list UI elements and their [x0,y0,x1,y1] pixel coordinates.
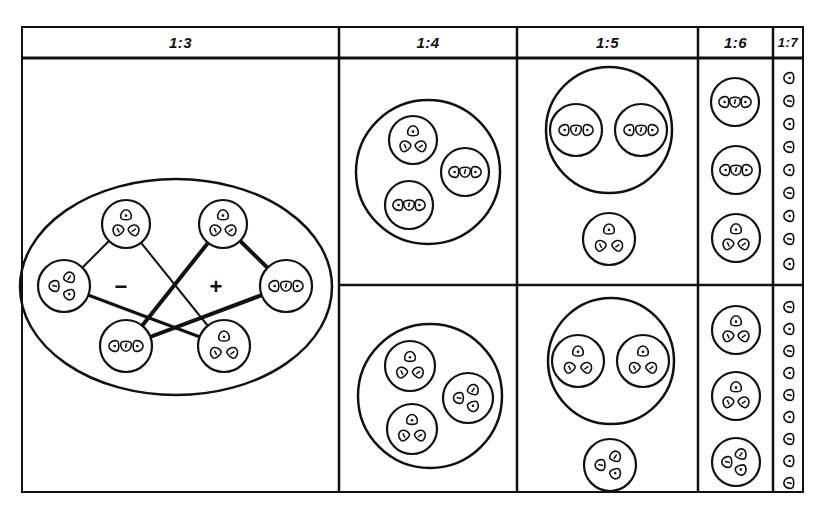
cell-glyph [407,414,418,424]
plus-sign: + [210,274,223,299]
cell-group-circle [584,439,636,491]
cell-group-circle [552,335,604,387]
cell-glyph [393,200,403,211]
cell-glyph [784,346,794,357]
cell-glyph [784,142,794,153]
cell-glyph [731,316,742,326]
cell-glyph [281,281,292,291]
cell-glyph [731,382,742,392]
cell-glyph [49,281,59,292]
cell-group-circle [712,306,760,354]
cell-glyph [784,368,794,379]
cell-glyph [219,331,230,341]
cell-group-circle [389,116,437,164]
cell-glyph [741,97,751,108]
cell-glyph [624,125,634,136]
cell-group-circle [198,320,250,372]
cell-group-circle [712,214,760,262]
cell-glyph [720,165,730,176]
cell-glyph [121,341,132,351]
cell-glyph [559,125,569,136]
cell-glyph [638,346,649,356]
header-label: 1:5 [596,34,619,51]
column-header-1-6: 1:6 [698,27,773,58]
cell-group-circle [199,200,247,248]
column-header-1-7: 1:7 [773,27,803,58]
cell-glyph [121,210,132,220]
cell-glyph [784,188,794,199]
cell-glyph [784,211,794,222]
cell-glyph [731,224,742,234]
cell-glyph [133,341,143,352]
diagram-canvas: −+ 1:3 1:4 1:5 1:6 1:7 [0,0,829,515]
cell-glyph [109,341,119,352]
cell-group-circle [617,335,669,387]
cell-group-circle [102,200,150,248]
cell-group-circle [443,373,493,423]
cell-glyph [404,200,415,210]
cell-glyph [453,393,463,404]
cell-group-circle [712,372,760,420]
column-header-1-3: 1:3 [22,27,339,58]
cell-glyph [784,259,794,270]
cell-glyph [722,457,732,468]
cell-glyph [269,281,279,292]
cell-glyph [784,302,794,313]
cell-glyph [449,167,459,178]
cell-glyph [731,165,742,175]
cell-glyph [408,126,419,136]
cell-glyph [784,324,794,335]
cell-glyph [636,125,647,135]
header-label: 1:4 [416,34,439,51]
cell-glyph [784,456,794,467]
cell-glyph [460,167,471,177]
header-label: 1:3 [169,34,192,51]
cell-glyph [405,351,416,361]
cell-glyph [784,96,794,107]
cell-glyph [784,73,794,84]
header-label: 1:7 [778,35,798,50]
cell-group-circle [583,213,635,265]
cell-group-circle [387,404,437,454]
cell-glyph [293,281,303,292]
cell-group-circle [385,341,435,391]
cell-glyph [571,125,582,135]
cell-group-circle [712,438,760,486]
cell-glyph [730,97,741,107]
diagram-svg: −+ [0,0,829,515]
cell-glyph [784,434,794,445]
cell-glyph [583,125,593,136]
column-header-1-4: 1:4 [339,27,517,58]
cell-glyph [415,200,425,211]
cell-glyph [742,165,752,176]
header-label: 1:6 [724,34,747,51]
cell-glyph [573,346,584,356]
cell-glyph [784,165,794,176]
minus-sign: − [115,274,128,299]
cell-glyph [471,167,481,178]
cell-glyph [595,460,605,471]
cell-glyph [784,478,794,489]
cell-glyph [218,210,229,220]
cell-group-circle [38,260,90,312]
cell-glyph [648,125,658,136]
cell-glyph [784,390,794,401]
cell-glyph [719,97,729,108]
column-header-1-5: 1:5 [517,27,698,58]
cell-glyph [784,412,794,423]
cell-glyph [604,224,615,234]
cell-glyph [784,119,794,130]
cell-glyph [784,234,794,245]
